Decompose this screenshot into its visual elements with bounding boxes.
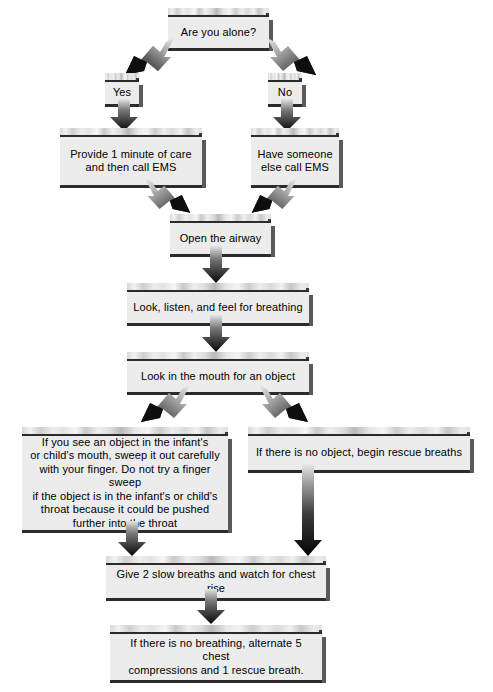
node-cap <box>106 556 326 563</box>
node-label: Open the airway <box>180 232 262 246</box>
node-cap <box>248 427 470 434</box>
node-cap <box>127 283 309 290</box>
node-body: Yes <box>105 80 139 107</box>
node-cap <box>110 625 322 632</box>
node-label: If there is no breathing, alternate 5 ch… <box>116 637 316 678</box>
node-body: Give 2 slow breaths and watch for chest … <box>106 563 326 601</box>
node-label: If you see an object in the infant's or … <box>28 436 222 531</box>
node-cap <box>268 73 302 80</box>
node-label: Provide 1 minute of care and then call E… <box>70 148 192 175</box>
node-label: Are you alone? <box>181 26 256 40</box>
node-provide-care[interactable]: Provide 1 minute of care and then call E… <box>60 128 206 188</box>
node-cap <box>168 8 269 15</box>
node-body: If there is no breathing, alternate 5 ch… <box>110 632 322 683</box>
node-label: Give 2 slow breaths and watch for chest … <box>112 568 320 595</box>
node-open-airway[interactable]: Open the airway <box>170 214 275 257</box>
node-body: Look, listen, and feel for breathing <box>127 290 309 326</box>
node-yes[interactable]: Yes <box>105 73 143 107</box>
node-body: If you see an object in the infant's or … <box>22 434 228 533</box>
node-cap <box>251 128 339 135</box>
node-cap <box>22 427 228 434</box>
node-label: Look in the mouth for an object <box>141 370 295 384</box>
node-have-someone-call[interactable]: Have someone else call EMS <box>251 128 343 188</box>
node-cap <box>170 214 271 221</box>
node-no-breathing[interactable]: If there is no breathing, alternate 5 ch… <box>110 625 326 683</box>
node-no-object[interactable]: If there is no object, begin rescue brea… <box>248 427 474 473</box>
node-label: Look, listen, and feel for breathing <box>133 301 302 315</box>
node-cap <box>127 352 309 359</box>
node-finger-sweep[interactable]: If you see an object in the infant's or … <box>22 427 232 533</box>
node-look-listen-feel[interactable]: Look, listen, and feel for breathing <box>127 283 313 326</box>
node-look-in-mouth[interactable]: Look in the mouth for an object <box>127 352 313 395</box>
node-label: If there is no object, begin rescue brea… <box>256 446 462 460</box>
node-body: Are you alone? <box>168 15 269 51</box>
node-cap <box>105 73 139 80</box>
node-body: No <box>268 80 302 107</box>
node-body: Open the airway <box>170 221 271 257</box>
node-two-slow-breaths[interactable]: Give 2 slow breaths and watch for chest … <box>106 556 330 601</box>
node-label: No <box>278 86 292 100</box>
node-body: Have someone else call EMS <box>251 135 339 188</box>
node-body: If there is no object, begin rescue brea… <box>248 434 470 473</box>
node-body: Provide 1 minute of care and then call E… <box>60 135 202 188</box>
node-body: Look in the mouth for an object <box>127 359 309 395</box>
connector-no-object-to-two-breaths <box>292 462 324 557</box>
node-no[interactable]: No <box>268 73 306 107</box>
node-label: Yes <box>113 86 131 100</box>
node-cap <box>60 128 202 135</box>
flowchart-canvas: Are you alone? <box>0 0 493 692</box>
node-are-you-alone[interactable]: Are you alone? <box>168 8 273 51</box>
node-label: Have someone else call EMS <box>257 148 332 175</box>
